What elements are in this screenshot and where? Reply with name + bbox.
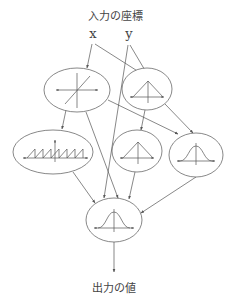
edge-x-A xyxy=(87,44,92,68)
cppn-diagram: 入力の座標 x y 出力の値 xyxy=(0,0,236,304)
edge-E-F xyxy=(141,177,196,213)
node-C-sawtooth xyxy=(13,130,93,174)
node-F-gaussian-output xyxy=(86,198,142,242)
edge-B-D xyxy=(141,110,145,130)
edge-x-B xyxy=(95,44,139,72)
edge-A-C xyxy=(62,110,66,129)
node-D-triangle xyxy=(112,130,162,172)
node-A-cross-axes xyxy=(44,68,110,112)
edge-B-E xyxy=(165,104,193,133)
edge-C-F xyxy=(73,172,95,203)
edge-y-F xyxy=(104,45,128,198)
node-B-triangle xyxy=(122,68,172,110)
edge-D-F xyxy=(129,172,135,199)
node-E-gaussian xyxy=(169,133,223,177)
diagram-graphics xyxy=(0,0,236,304)
